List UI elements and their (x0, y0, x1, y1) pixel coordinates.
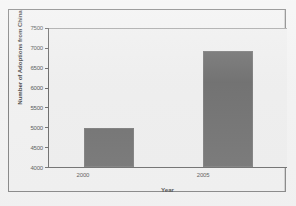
y-tick-mark-6500 (45, 68, 49, 69)
y-tick-mark-7500 (45, 28, 49, 29)
y-tick-label-7500: 7500 (30, 25, 43, 31)
y-tick-mark-5500 (45, 107, 49, 108)
y-tick-label-7000: 7000 (30, 45, 43, 51)
y-tick-label-5500: 5500 (30, 105, 43, 111)
bar-2000 (84, 128, 134, 167)
y-axis-tick-labels: 7500 7000 6500 6000 5500 5000 4500 4000 (9, 28, 43, 168)
y-tick-mark-6000 (45, 88, 49, 89)
chart-figure: 7500 7000 6500 6000 5500 5000 4500 4000 … (0, 0, 296, 206)
x-tick-label-2005: 2005 (197, 172, 210, 178)
y-tick-label-5000: 5000 (30, 125, 43, 131)
plot-area (48, 28, 287, 168)
figure-frame: 7500 7000 6500 6000 5500 5000 4500 4000 … (8, 9, 286, 192)
y-tick-mark-5000 (45, 127, 49, 128)
bar-2005 (203, 51, 253, 167)
x-axis-title: Year (48, 186, 287, 193)
y-tick-label-6000: 6000 (30, 85, 43, 91)
y-tick-label-4000: 4000 (30, 165, 43, 171)
y-tick-mark-7000 (45, 48, 49, 49)
y-tick-mark-4500 (45, 147, 49, 148)
y-tick-mark-4000 (45, 167, 49, 168)
x-tick-label-2000: 2000 (77, 172, 90, 178)
y-tick-label-4500: 4500 (30, 145, 43, 151)
plot-top-rule (49, 28, 287, 29)
y-tick-label-6500: 6500 (30, 65, 43, 71)
y-axis-title: Number of Adoptions from China (16, 0, 23, 123)
x-axis-tick-labels: 2000 2005 (48, 172, 287, 184)
